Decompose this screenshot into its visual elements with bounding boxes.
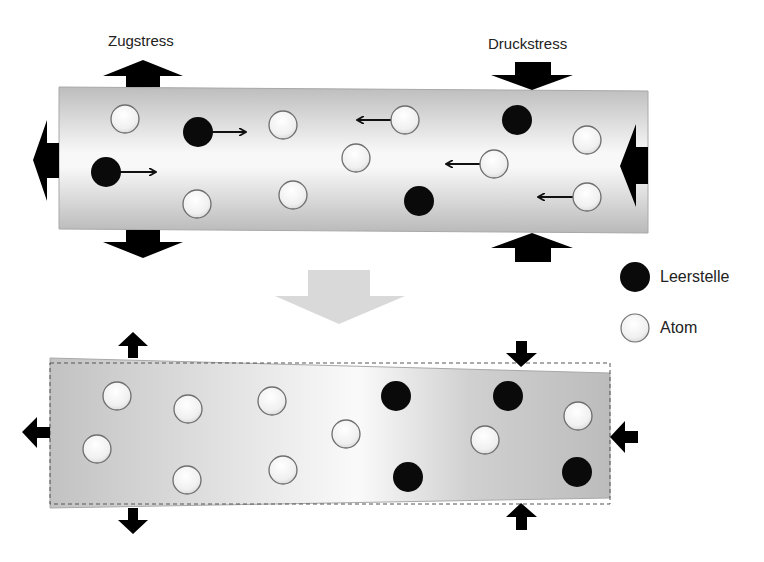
vacancy-icon <box>381 381 411 411</box>
top-panel <box>33 60 648 262</box>
arrow-up-icon <box>103 60 183 87</box>
vacancy-icon <box>404 186 434 216</box>
arrow-left-icon <box>33 120 59 201</box>
legend-atom-label: Atom <box>660 319 697 337</box>
vacancy-icon <box>493 381 523 411</box>
atom-icon <box>83 435 111 463</box>
legend-vacancy-label: Leerstelle <box>660 268 729 286</box>
atom-icon <box>564 402 592 430</box>
arrow-up-icon <box>506 503 537 530</box>
atom-icon <box>391 106 419 134</box>
arrow-left-icon <box>22 417 50 448</box>
atom-icon <box>269 456 297 484</box>
atom-icon <box>332 420 360 448</box>
atom-icon <box>174 395 202 423</box>
vacancy-icon <box>502 105 532 135</box>
vacancy-icon <box>91 157 121 187</box>
legend <box>620 262 650 342</box>
atom-icon <box>573 126 601 154</box>
transition-arrow-icon <box>275 270 405 324</box>
atom-icon <box>258 387 286 415</box>
vacancy-icon <box>183 117 213 147</box>
vacancy-icon <box>562 457 592 487</box>
arrow-down-icon <box>118 508 148 534</box>
legend-atom-icon <box>621 314 649 342</box>
arrow-up-icon <box>491 233 573 262</box>
atom-icon <box>173 466 201 494</box>
tensile-stress-label: Zugstress <box>108 32 174 49</box>
crystal-bar-bottom <box>50 358 610 508</box>
atom-icon <box>103 382 131 410</box>
bottom-panel <box>22 332 638 534</box>
arrow-up-icon <box>118 332 148 358</box>
arrow-left-icon <box>610 421 638 453</box>
atom-icon <box>111 105 139 133</box>
arrow-down-icon <box>491 62 573 90</box>
vacancy-icon <box>393 462 423 492</box>
legend-vacancy-icon <box>620 262 650 292</box>
arrow-down-icon <box>506 341 537 367</box>
atom-icon <box>471 426 499 454</box>
atom-icon <box>279 181 307 209</box>
compressive-stress-label: Druckstress <box>488 35 567 52</box>
diagram-canvas <box>0 0 764 562</box>
atom-icon <box>342 144 370 172</box>
atom-icon <box>573 183 601 211</box>
arrow-down-icon <box>103 230 183 258</box>
atom-icon <box>183 190 211 218</box>
atom-icon <box>480 150 508 178</box>
atom-icon <box>269 111 297 139</box>
